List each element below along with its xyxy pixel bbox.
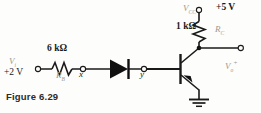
output-voltage-label: Vo+ xyxy=(225,60,238,73)
collector-resistor-subscript: C xyxy=(221,30,225,36)
vcc-terminal[interactable] xyxy=(196,7,201,12)
supply-voltage-label: VCC xyxy=(183,4,196,15)
output-terminal[interactable] xyxy=(238,45,243,50)
base-resistor-label: RB xyxy=(56,71,65,82)
figure-panel: Vi +2 V 6 kΩ RB x y VCC +5 V 1 kΩ RC Vo+… xyxy=(0,0,261,113)
node-y-label: y xyxy=(140,70,144,79)
diode-triangle xyxy=(110,60,128,79)
node-x-label: x xyxy=(79,70,83,79)
collector-resistor-value: 1 kΩ xyxy=(176,22,196,32)
base-resistor-value: 6 kΩ xyxy=(47,44,67,54)
output-voltage-subscript: o xyxy=(231,67,234,73)
input-voltage-value: +2 V xyxy=(4,68,23,78)
supply-voltage-subscript: CC xyxy=(189,9,196,15)
base-resistor-subscript: B xyxy=(62,76,65,82)
supply-voltage-value: +5 V xyxy=(216,3,235,13)
output-polarity-sign: + xyxy=(233,59,237,66)
input-terminal[interactable] xyxy=(35,66,40,71)
figure-caption: Figure 6.29 xyxy=(6,92,58,102)
collector-resistor-label: RC xyxy=(215,25,224,36)
transistor-collector-lead xyxy=(181,48,199,63)
